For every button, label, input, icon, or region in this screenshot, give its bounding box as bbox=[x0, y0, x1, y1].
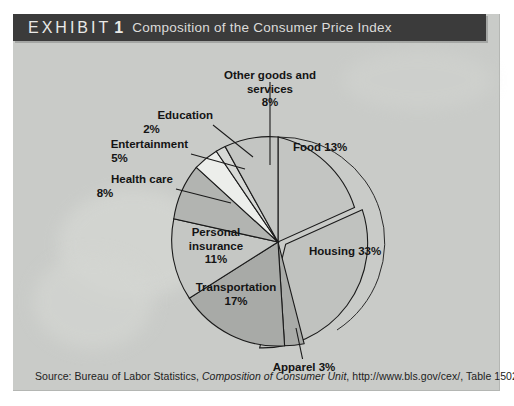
pie-label-other-goods-line2: services bbox=[205, 83, 335, 97]
pie-label-personal-insurance-line2: insurance bbox=[166, 240, 266, 254]
exhibit-title: Composition of the Consumer Price Index bbox=[132, 20, 392, 35]
exhibit-label: EXHIBIT bbox=[28, 19, 111, 37]
pie-label-housing: Housing 33% bbox=[309, 245, 381, 259]
exhibit-number: 1 bbox=[114, 19, 123, 37]
pie-label-transportation-line2: 17% bbox=[181, 295, 291, 309]
pie-label-education: Education 2% bbox=[108, 109, 213, 136]
source-comma-1: , bbox=[346, 370, 349, 382]
pie-label-transportation: Transportation 17% bbox=[181, 281, 291, 308]
pie-label-transportation-line1: Transportation bbox=[181, 281, 291, 295]
pie-chart: Other goods and services 8% Education 2%… bbox=[13, 41, 500, 359]
source-publication-title: Composition of Consumer Unit bbox=[202, 370, 346, 382]
source-prefix: Source: Bureau of Labor Statistics, bbox=[35, 370, 199, 382]
pie-label-personal-insurance-line3: 11% bbox=[166, 253, 266, 267]
source-note: Source: Bureau of Labor Statistics, Comp… bbox=[35, 370, 514, 382]
pie-label-health-care: Health care 8% bbox=[63, 173, 173, 200]
pie-label-health-care-line1: Health care bbox=[63, 173, 173, 187]
pie-label-health-care-line2: 8% bbox=[63, 187, 173, 201]
pie-label-entertainment-line2: 5% bbox=[75, 152, 188, 166]
pie-label-entertainment-line1: Entertainment bbox=[75, 138, 188, 152]
pie-label-education-line1: Education bbox=[108, 109, 213, 123]
exhibit-card: EXHIBIT 1 Composition of the Consumer Pr… bbox=[13, 14, 500, 391]
pie-label-personal-insurance: Personal insurance 11% bbox=[166, 226, 266, 267]
source-suffix: Table 1502. bbox=[466, 370, 514, 382]
pie-label-other-goods: Other goods and services 8% bbox=[205, 69, 335, 110]
pie-label-food-line1: Food 13% bbox=[293, 141, 347, 155]
pie-label-entertainment: Entertainment 5% bbox=[75, 138, 188, 165]
pie-label-other-goods-line3: 8% bbox=[205, 96, 335, 110]
source-url: http://www.bls.gov/cex/ bbox=[352, 370, 460, 382]
pie-label-other-goods-line1: Other goods and bbox=[205, 69, 335, 83]
exhibit-header: EXHIBIT 1 Composition of the Consumer Pr… bbox=[13, 14, 486, 41]
pie-label-housing-line1: Housing 33% bbox=[309, 245, 381, 259]
pie-label-personal-insurance-line1: Personal bbox=[166, 226, 266, 240]
pie-label-food: Food 13% bbox=[293, 141, 347, 155]
source-comma-2: , bbox=[460, 370, 463, 382]
pie-label-education-line2: 2% bbox=[108, 123, 213, 137]
